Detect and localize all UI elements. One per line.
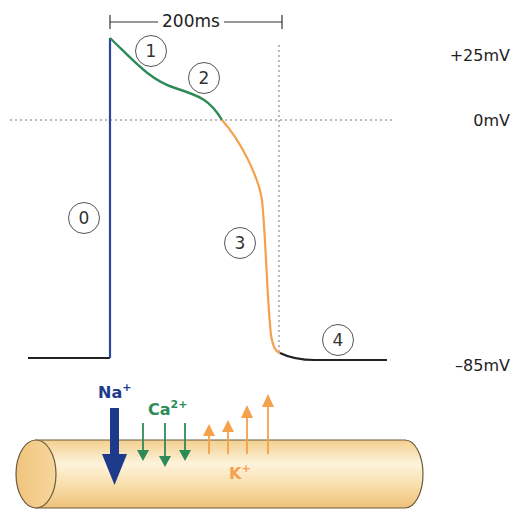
- phase-3-marker: 3: [224, 227, 256, 259]
- time-scale-label: 200ms: [158, 11, 224, 31]
- phase-0-marker: 0: [68, 202, 100, 234]
- voltage-label-rest: –85mV: [400, 356, 510, 375]
- potassium-charge: +: [241, 462, 250, 475]
- potassium-symbol: K: [229, 464, 241, 483]
- calcium-symbol: Ca: [148, 400, 171, 419]
- calcium-charge: 2+: [171, 398, 188, 411]
- phase-1-marker: 1: [135, 35, 167, 67]
- action-potential-diagram: 200ms +25mV 0mV –85mV 1 2 0 3 4 Na+ Ca2+…: [0, 0, 529, 521]
- sodium-charge: +: [122, 381, 131, 394]
- phase-4-marker: 4: [322, 324, 354, 356]
- phase-2-marker: 2: [188, 62, 220, 94]
- cardiac-cell-cylinder: [16, 440, 423, 508]
- sodium-ion-label: Na+: [98, 381, 131, 402]
- voltage-label-zero: 0mV: [400, 111, 510, 130]
- potassium-ion-label: K+: [229, 462, 251, 483]
- calcium-ion-label: Ca2+: [148, 398, 187, 419]
- sodium-symbol: Na: [98, 383, 122, 402]
- voltage-label-peak: +25mV: [400, 46, 510, 65]
- diagram-canvas: [0, 0, 529, 521]
